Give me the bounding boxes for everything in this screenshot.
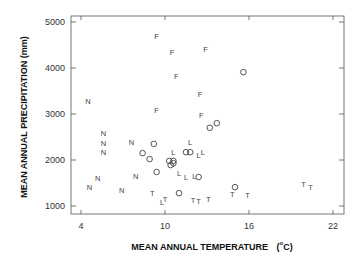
data-point-f: F: [154, 32, 159, 41]
data-point-o: [154, 169, 160, 175]
data-point-f: F: [198, 90, 203, 99]
data-point-t: T: [206, 195, 211, 204]
data-point-n: N: [101, 129, 106, 138]
data-point-f: F: [170, 48, 175, 57]
data-point-o: [187, 149, 193, 155]
x-tick-label: 4: [78, 221, 83, 231]
data-point-t: T: [245, 191, 250, 200]
y-axis-title: MEAN ANNUAL PRECIPITATION (mm): [19, 36, 29, 198]
data-point-n: N: [129, 138, 134, 147]
x-tick-label: 16: [244, 221, 254, 231]
data-point-t: T: [308, 183, 313, 192]
data-point-t: T: [163, 195, 168, 204]
y-tick-label: 4000: [45, 63, 65, 73]
data-point-l: L: [188, 138, 192, 147]
data-point-t: T: [301, 180, 306, 189]
data-point-o: [176, 190, 182, 196]
data-point-f: F: [199, 111, 204, 120]
data-point-n: N: [87, 183, 92, 192]
x-tick-label: 10: [160, 221, 170, 231]
data-point-f: F: [174, 72, 179, 81]
x-tick-label: 22: [328, 221, 338, 231]
data-point-t: T: [230, 190, 235, 199]
x-axis-title: MEAN ANNUAL TEMPERATURE (oC): [131, 240, 293, 252]
data-point-n: N: [101, 139, 106, 148]
data-point-o: [140, 150, 146, 156]
y-tick-label: 2000: [45, 155, 65, 165]
data-point-l: L: [201, 148, 205, 157]
data-point-t: T: [191, 196, 196, 205]
data-point-l: L: [171, 148, 175, 157]
data-point-o: [147, 156, 153, 162]
data-point-o: [207, 125, 213, 131]
data-point-f: F: [154, 106, 159, 115]
data-point-l: L: [192, 172, 196, 181]
data-point-l: L: [177, 169, 181, 178]
data-point-n: N: [101, 148, 106, 157]
y-tick-label: 5000: [45, 17, 65, 27]
data-point-t: T: [196, 197, 201, 206]
data-point-o: [196, 174, 202, 180]
data-point-n: N: [133, 172, 138, 181]
y-tick-label: 1000: [45, 201, 65, 211]
data-point-o: [214, 120, 220, 126]
data-point-l: L: [184, 173, 188, 182]
data-points: NNNNNNNNNFFFFFFFLLLLLLLLTTTTTTTTT: [85, 32, 313, 207]
data-point-f: F: [203, 45, 208, 54]
y-tick-label: 3000: [45, 109, 65, 119]
data-point-o: [241, 69, 247, 75]
data-point-t: T: [150, 189, 155, 198]
scatter-chart: 4101622 10002000300040005000 NNNNNNNNNFF…: [0, 0, 359, 268]
data-point-o: [151, 141, 157, 147]
data-point-n: N: [95, 174, 100, 183]
data-point-n: N: [119, 186, 124, 195]
data-point-n: N: [85, 97, 90, 106]
